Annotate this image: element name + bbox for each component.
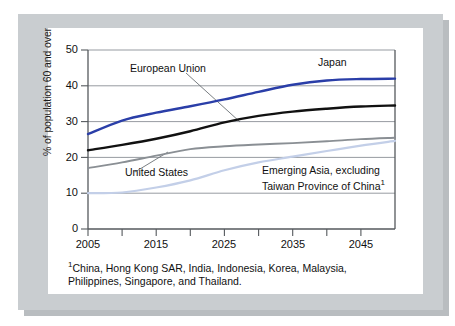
footnote-text: China, Hong Kong SAR, India, Indonesia, … (68, 262, 347, 287)
series-label-emerging-asia-footnote-marker: 1 (380, 178, 384, 187)
series-label-emerging-asia: Emerging Asia, excludingTaiwan Province … (262, 164, 385, 192)
y-axis-ticks (81, 50, 88, 229)
xtick-label-2045: 2045 (341, 238, 381, 250)
ytick-label-30: 30 (56, 115, 78, 127)
ytick-label-0: 0 (56, 222, 78, 234)
series-line-european-union (88, 105, 395, 150)
xtick-label-2015: 2015 (136, 238, 176, 250)
series-label-emerging-asia-line2: Taiwan Province of China (262, 179, 380, 191)
xtick-label-2025: 2025 (204, 238, 244, 250)
ytick-label-10: 10 (56, 186, 78, 198)
series-label-emerging-asia-line1: Emerging Asia, excluding (262, 164, 380, 176)
series-label-european-union: European Union (130, 62, 206, 75)
xtick-label-2005: 2005 (68, 238, 108, 250)
ytick-label-50: 50 (56, 43, 78, 55)
ytick-label-40: 40 (56, 79, 78, 91)
ytick-label-20: 20 (56, 151, 78, 163)
figure-frame: 50 40 30 20 10 0 2005 2015 2025 2035 204… (0, 0, 455, 326)
chart-plot-area: 50 40 30 20 10 0 2005 2015 2025 2035 204… (0, 0, 455, 326)
chart-footnote: 1China, Hong Kong SAR, India, Indonesia,… (68, 258, 398, 288)
xtick-label-2035: 2035 (273, 238, 313, 250)
y-axis-title: % of population 60 and over (41, 12, 53, 172)
x-axis-ticks (88, 229, 361, 236)
series-label-united-states: United States (125, 166, 188, 179)
series-label-japan: Japan (318, 56, 347, 69)
